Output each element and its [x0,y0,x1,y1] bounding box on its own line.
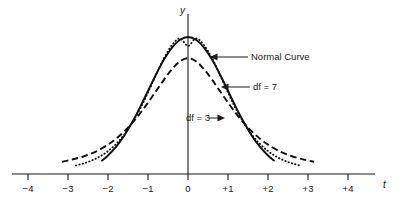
chart-canvas [0,0,402,204]
x-tick-label: +4 [333,184,363,194]
x-tick-label: +2 [253,184,283,194]
x-tick-label: −4 [13,184,43,194]
x-axis-ticks [28,174,348,180]
normal-curve-leader [210,54,248,61]
x-tick-label: −1 [133,184,163,194]
annotation-df-3: df = 3 [186,113,210,123]
x-tick-label: +1 [213,184,243,194]
x-axis-label: t [383,180,386,190]
x-tick-label: +3 [293,184,323,194]
x-tick-label: 0 [173,184,203,194]
x-tick-label: −2 [93,184,123,194]
t-distribution-figure: −4−3−2−10+1+2+3+4 y t Normal Curve df = … [0,0,402,204]
annotation-normal-curve: Normal Curve [251,52,310,62]
y-axis-label: y [180,6,185,16]
x-tick-label: −3 [53,184,83,194]
annotation-df-7: df = 7 [253,82,277,92]
arrow-head-right [218,115,226,122]
df3-leader [209,115,225,122]
